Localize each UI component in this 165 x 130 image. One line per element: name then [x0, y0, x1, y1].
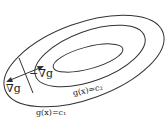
grad-label: ∇g — [6, 82, 21, 95]
c1-label: g(x)=c₁ — [36, 108, 66, 117]
level-curves-diagram: −∇g ∇g g(x)=c₂ g(x)=c₁ — [0, 0, 165, 130]
level-curve-inner — [50, 38, 125, 78]
diagram-svg — [0, 0, 165, 130]
neg-grad-label: −∇g — [29, 67, 53, 80]
level-curve-outer — [0, 0, 165, 125]
